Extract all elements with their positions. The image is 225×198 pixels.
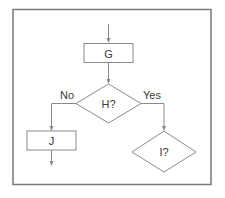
- yes-branch-label: Yes: [143, 89, 161, 101]
- node-g-label: G: [104, 48, 113, 60]
- arrowhead-icon: [107, 79, 111, 84]
- flowchart-diagram: G H? No Yes J I?: [0, 0, 225, 198]
- arrowhead-icon: [50, 161, 54, 166]
- arrowhead-icon: [162, 126, 166, 131]
- decision-node-h: H?: [76, 84, 141, 123]
- arrowhead-icon: [50, 126, 54, 131]
- node-i-label: I?: [159, 146, 168, 158]
- process-node-j: J: [27, 131, 76, 150]
- edge-h-to-j: No: [50, 89, 77, 131]
- node-h-label: H?: [101, 98, 115, 110]
- decision-node-i: I?: [132, 131, 196, 172]
- node-j-label: J: [49, 135, 55, 147]
- edge-g-to-h: [107, 63, 111, 85]
- edge-h-to-i: Yes: [141, 89, 166, 131]
- arrowhead-icon: [107, 38, 111, 43]
- process-node-g: G: [84, 44, 133, 63]
- no-branch-label: No: [60, 89, 74, 101]
- entry-arrow: [107, 24, 111, 43]
- edge-j-exit: [50, 150, 54, 166]
